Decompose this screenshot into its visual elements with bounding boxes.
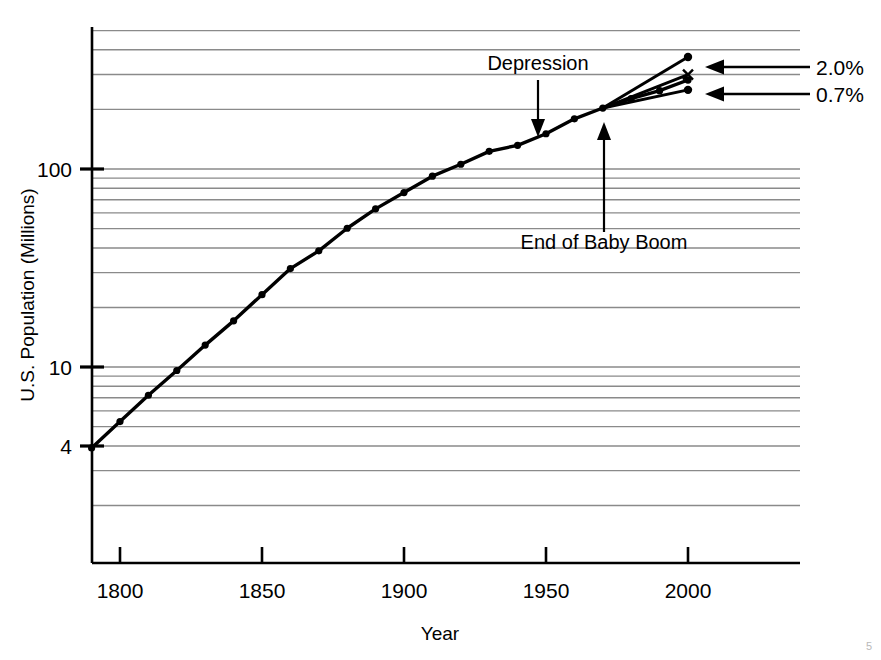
x-axis-title: Year	[421, 623, 460, 644]
data-point	[315, 247, 322, 254]
page-corner-mark: 5	[866, 640, 872, 652]
data-point	[486, 148, 493, 155]
x-tick-label-1850: 1850	[239, 579, 286, 602]
chart-background	[0, 0, 881, 660]
depression-label: Depression	[487, 52, 588, 74]
y-axis-title: U.S. Population (Millions)	[17, 188, 38, 401]
y-tick-label-4: 4	[60, 435, 72, 458]
data-point	[202, 342, 209, 349]
data-point	[571, 115, 578, 122]
chart-svg: 100 10 4 1800 1850 1900 1950 2000 Year U…	[0, 0, 881, 660]
data-point	[88, 444, 95, 451]
rate-low-label: 0.7%	[816, 83, 864, 106]
data-point	[258, 291, 265, 298]
rate-high-label: 2.0%	[816, 56, 864, 79]
x-tick-label-1800: 1800	[97, 579, 144, 602]
x-tick-label-2000: 2000	[665, 579, 712, 602]
data-point	[145, 392, 152, 399]
data-point	[684, 86, 692, 94]
data-point	[372, 205, 379, 212]
data-point	[230, 317, 237, 324]
y-tick-label-100: 100	[37, 158, 72, 181]
y-tick-label-10: 10	[49, 356, 72, 379]
data-point	[542, 130, 549, 137]
data-point	[684, 53, 692, 61]
baby-boom-label: End of Baby Boom	[521, 231, 688, 253]
population-growth-chart: 100 10 4 1800 1850 1900 1950 2000 Year U…	[0, 0, 881, 660]
data-point	[344, 225, 351, 232]
data-point	[429, 173, 436, 180]
data-point	[287, 265, 294, 272]
x-tick-label-1950: 1950	[523, 579, 570, 602]
data-point	[400, 189, 407, 196]
data-point	[173, 367, 180, 374]
data-point	[457, 161, 464, 168]
data-point	[116, 418, 123, 425]
x-tick-label-1900: 1900	[381, 579, 428, 602]
data-point	[514, 142, 521, 149]
